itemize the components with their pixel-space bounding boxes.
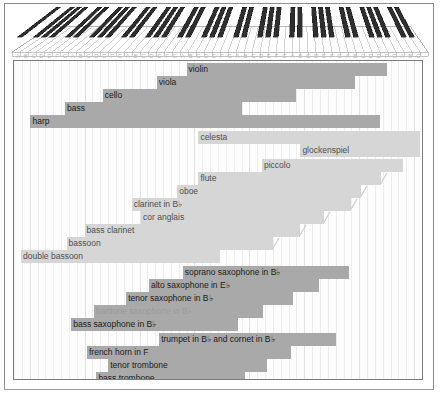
gridline — [336, 61, 337, 379]
gridline — [406, 61, 407, 379]
range-bar-label: soprano saxophone in B♭ — [185, 266, 281, 279]
range-extension-mark — [299, 224, 307, 237]
range-bar-label: celesta — [200, 131, 227, 144]
range-bar[interactable]: bassoon — [67, 237, 273, 250]
range-bar[interactable]: bass — [65, 102, 242, 115]
range-bar[interactable]: viola — [157, 76, 356, 89]
range-bar[interactable]: cello — [103, 89, 297, 102]
gridline — [414, 61, 415, 379]
gridline — [344, 61, 345, 379]
range-extension-mark — [350, 198, 358, 211]
range-bar[interactable]: trumpet in B♭ and cornet in B♭ — [159, 333, 336, 346]
gridline — [375, 61, 376, 379]
range-extension-mark — [323, 211, 331, 224]
range-bar-label: trumpet in B♭ and cornet in B♭ — [161, 333, 274, 346]
range-bar-label: piccolo — [264, 159, 290, 172]
range-bar-label: cello — [105, 89, 122, 102]
range-bar-label: bass trombone — [98, 372, 154, 380]
range-chart-panel: violinviolacellobassharpcelestaglockensp… — [13, 60, 423, 380]
range-bar-label: flute — [200, 172, 216, 185]
range-bar[interactable]: baritone saxophone in B♭ — [94, 305, 263, 318]
gridline — [61, 61, 62, 379]
gridline — [38, 61, 39, 379]
gridline — [367, 61, 368, 379]
gridline — [45, 61, 46, 379]
range-bar-label: viola — [159, 76, 176, 89]
range-bar[interactable]: cor anglais — [141, 211, 324, 224]
range-bar-label: alto saxophone in E♭ — [151, 279, 230, 292]
range-bar-label: bass clarinet — [87, 224, 135, 237]
range-bar-label: clarinet in B♭ — [134, 198, 182, 211]
range-bar-label: glockenspiel — [302, 144, 349, 157]
range-bar[interactable]: bass trombone — [96, 372, 244, 380]
range-bar-label: harp — [32, 115, 49, 128]
range-bar-label: violin — [189, 63, 208, 76]
range-bar-label: baritone saxophone in B♭ — [96, 305, 192, 318]
range-bar[interactable]: bass clarinet — [85, 224, 301, 237]
range-bar[interactable]: soprano saxophone in B♭ — [183, 266, 349, 279]
range-bar-label: cor anglais — [143, 211, 184, 224]
range-bar-label: oboe — [179, 185, 198, 198]
range-bar-label: french horn in F — [89, 346, 149, 359]
gridline — [351, 61, 352, 379]
instrument-range-figure: ABCDEFGABCDEFGABCDEFGABCDEFGABCDEFGABCDE… — [0, 0, 442, 399]
range-bar-label: tenor trombone — [110, 359, 168, 372]
range-bar[interactable]: flute — [198, 172, 381, 185]
gridline — [422, 61, 423, 379]
range-bar[interactable]: alto saxophone in E♭ — [149, 279, 319, 292]
range-extension-mark — [272, 237, 280, 250]
gridline — [14, 61, 15, 379]
range-extension-mark — [360, 185, 368, 198]
gridline — [359, 61, 360, 379]
range-bar[interactable]: tenor saxophone in B♭ — [126, 292, 293, 305]
range-bar[interactable]: oboe — [177, 185, 361, 198]
range-bar[interactable]: tenor trombone — [108, 359, 266, 372]
range-bar[interactable]: celesta — [198, 131, 419, 144]
range-extension-mark — [380, 172, 388, 185]
gridline — [30, 61, 31, 379]
range-bar-label: double bassoon — [23, 250, 83, 263]
gridline — [391, 61, 392, 379]
gridline — [398, 61, 399, 379]
range-bar[interactable]: harp — [30, 115, 380, 128]
gridline — [383, 61, 384, 379]
bottom-rule — [4, 389, 434, 390]
range-bar-label: bass saxophone in B♭ — [73, 318, 156, 331]
gridline — [22, 61, 23, 379]
range-bar[interactable]: violin — [187, 63, 387, 76]
range-bar[interactable]: double bassoon — [21, 250, 220, 263]
range-bar[interactable]: clarinet in B♭ — [132, 198, 352, 211]
gridline — [53, 61, 54, 379]
range-bar-label: bass — [67, 102, 85, 115]
range-bar-label: bassoon — [69, 237, 101, 250]
range-bar[interactable]: piccolo — [262, 159, 403, 172]
range-bar-label: tenor saxophone in B♭ — [128, 292, 212, 305]
range-bar[interactable]: french horn in F — [87, 346, 291, 359]
range-bar[interactable]: glockenspiel — [300, 144, 419, 157]
range-bar[interactable]: bass saxophone in B♭ — [71, 318, 238, 331]
